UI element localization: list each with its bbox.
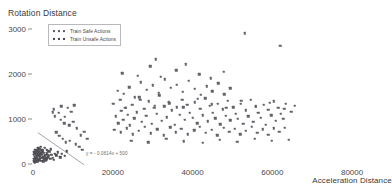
data-point: [197, 97, 199, 99]
data-point: [68, 124, 70, 126]
data-point: [120, 110, 122, 112]
data-point: [275, 120, 277, 122]
data-point: [229, 87, 231, 89]
data-point: [181, 98, 183, 100]
data-point: [217, 102, 219, 104]
data-point: [256, 132, 258, 134]
data-point: [186, 104, 188, 106]
data-point: [175, 83, 177, 85]
data-point: [216, 134, 218, 136]
data-point: [280, 113, 282, 115]
data-point: [293, 105, 295, 107]
data-point: [240, 103, 242, 105]
data-point: [160, 76, 162, 78]
data-point: [116, 90, 118, 92]
data-point: [288, 139, 290, 141]
data-point: [169, 126, 171, 128]
data-point: [219, 138, 221, 140]
data-point: [113, 129, 115, 131]
data-point: [202, 142, 204, 144]
data-point: [147, 141, 149, 143]
data-point: [166, 116, 168, 118]
data-point: [55, 154, 57, 156]
data-point: [73, 104, 75, 106]
data-point: [185, 63, 187, 65]
data-point: [131, 104, 133, 106]
data-point: [245, 129, 247, 131]
data-point: [234, 128, 236, 130]
data-point: [181, 91, 183, 93]
data-point: [53, 159, 55, 161]
data-point: [58, 135, 60, 137]
data-point: [86, 138, 88, 140]
data-point: [155, 113, 157, 115]
data-point: [222, 71, 224, 73]
data-point: [163, 105, 165, 107]
data-point: [130, 139, 132, 141]
data-point: [68, 139, 70, 141]
data-point: [199, 107, 201, 109]
data-point: [149, 132, 151, 134]
data-point: [112, 102, 114, 104]
data-point: [285, 103, 287, 105]
legend-item-unsafe: Train Unsafe Actions: [52, 35, 116, 43]
data-point: [187, 80, 189, 82]
data-point: [60, 105, 62, 107]
data-point: [204, 97, 206, 99]
data-point: [247, 115, 249, 117]
data-point: [182, 106, 184, 108]
data-point: [128, 86, 130, 88]
data-point: [169, 87, 171, 89]
data-point: [134, 96, 136, 98]
data-point: [224, 115, 226, 117]
data-point: [173, 124, 175, 126]
data-point: [265, 124, 267, 126]
data-point: [222, 127, 224, 129]
data-point: [205, 132, 207, 134]
data-point: [194, 101, 196, 103]
data-point: [81, 148, 83, 150]
data-point: [277, 107, 279, 109]
data-point: [63, 155, 65, 157]
data-point: [124, 107, 126, 109]
legend-marker-safe-icon: [52, 28, 67, 35]
data-point: [67, 107, 69, 109]
data-point: [65, 150, 67, 152]
data-point: [132, 133, 134, 135]
data-point: [210, 129, 212, 131]
data-point: [232, 106, 234, 108]
data-point: [120, 131, 122, 133]
data-point: [236, 141, 238, 143]
data-point: [201, 114, 203, 116]
data-point: [211, 90, 213, 92]
data-point: [153, 107, 155, 109]
data-point: [75, 143, 77, 145]
data-point: [273, 127, 275, 129]
data-point: [284, 127, 286, 129]
data-point: [149, 65, 151, 67]
data-point: [219, 123, 221, 125]
data-point: [61, 138, 63, 140]
data-point: [51, 111, 53, 113]
data-point: [78, 146, 80, 148]
data-point: [225, 107, 227, 109]
data-point: [229, 119, 231, 121]
data-point: [121, 72, 123, 74]
data-point: [211, 103, 213, 105]
data-point: [250, 126, 252, 128]
data-point: [242, 123, 244, 125]
data-point: [270, 140, 272, 142]
data-point: [210, 77, 212, 79]
data-point: [143, 126, 145, 128]
data-point: [76, 127, 78, 129]
data-point: [152, 84, 154, 86]
data-point: [141, 120, 143, 122]
data-point: [148, 100, 150, 102]
data-point: [126, 127, 128, 129]
data-point: [179, 114, 181, 116]
data-point: [228, 131, 230, 133]
data-point: [59, 156, 61, 158]
data-point: [59, 119, 61, 121]
data-point: [156, 128, 158, 130]
data-point: [64, 115, 66, 117]
